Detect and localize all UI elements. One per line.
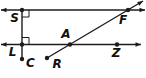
- label-R: R: [52, 57, 61, 71]
- geometry-diagram-svg: SFLAZCR: [0, 0, 146, 78]
- geometry-figure: SFLAZCR: [0, 0, 146, 78]
- label-S: S: [10, 11, 19, 25]
- bottom-parallel-line-through-L-A-Z-end-arrow-icon: [136, 42, 142, 46]
- label-A: A: [60, 27, 70, 41]
- label-Z: Z: [111, 46, 121, 60]
- label-F: F: [119, 13, 128, 27]
- top-parallel-line-through-S-F-end-arrow-icon: [140, 8, 146, 12]
- point-C: [20, 57, 24, 61]
- point-R: [45, 56, 49, 60]
- bottom-parallel-line-through-L-A-Z-start-arrow-icon: [1, 42, 7, 46]
- point-L: [20, 42, 24, 46]
- point-S: [20, 8, 24, 12]
- top-parallel-line-through-S-F-start-arrow-icon: [1, 8, 7, 12]
- transversal-ray-R-A-F-end-arrow-icon: [137, 1, 143, 6]
- point-A: [68, 42, 72, 46]
- label-L: L: [9, 45, 17, 59]
- label-C: C: [26, 56, 35, 70]
